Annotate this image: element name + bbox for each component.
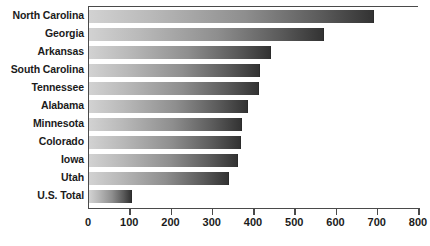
axis-tick [253,208,255,215]
bar-row [89,133,418,151]
bar [89,136,241,149]
axis-tick [212,208,214,215]
category-label: Tennessee [0,78,84,96]
category-label: North Carolina [0,6,84,24]
bar [89,118,242,131]
category-label: Georgia [0,24,84,42]
bar [89,100,248,113]
axis-tick-label: 800 [409,216,427,228]
axis-tick-label: 300 [203,216,221,228]
category-label: U.S. Total [0,186,84,204]
axis-tick [418,208,420,215]
x-axis-ticks [88,208,418,216]
bar-row [89,151,418,169]
plot-area [88,6,418,209]
axis-tick [336,208,338,215]
axis-tick [377,208,379,215]
bar [89,64,260,77]
bar-row [89,25,418,43]
bar [89,154,238,167]
axis-tick-label: 100 [120,216,138,228]
category-label: Utah [0,168,84,186]
axis-tick-label: 600 [326,216,344,228]
bar [89,82,259,95]
axis-tick-label: 700 [368,216,386,228]
category-label: Arkansas [0,42,84,60]
category-label: Colorado [0,132,84,150]
bar-row [89,43,418,61]
bar-row [89,115,418,133]
bar [89,46,271,59]
category-label: South Carolina [0,60,84,78]
bar-row [89,187,418,205]
bar-row [89,61,418,79]
axis-tick-label: 400 [244,216,262,228]
bar-row [89,7,418,25]
bar-row [89,169,418,187]
axis-tick [171,208,173,215]
bar [89,172,229,185]
axis-tick-label: 0 [85,216,91,228]
category-axis-labels: North CarolinaGeorgiaArkansasSouth Carol… [0,6,84,204]
category-label: Minnesota [0,114,84,132]
bar [89,10,374,23]
category-label: Iowa [0,150,84,168]
x-axis-tick-labels: 0100200300400500600700800 [0,216,430,236]
bar-row [89,97,418,115]
axis-tick [294,208,296,215]
axis-tick-label: 200 [161,216,179,228]
axis-tick [129,208,131,215]
bar [89,28,324,41]
bar [89,190,132,203]
horizontal-bar-chart: North CarolinaGeorgiaArkansasSouth Carol… [0,0,430,246]
axis-tick-label: 500 [285,216,303,228]
category-label: Alabama [0,96,84,114]
bar-row [89,79,418,97]
